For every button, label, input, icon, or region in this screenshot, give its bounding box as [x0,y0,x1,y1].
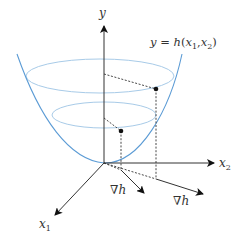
function-close-paren: ) [212,35,217,49]
x1-axis-label: x1 [39,218,51,233]
upper-point-dash-to-y [104,74,156,89]
upper-point [154,87,159,92]
x1-axis [55,163,104,215]
x2-axis-label: x2 [219,157,231,172]
diagram-canvas: y y = h(x1,x2) x2 x1 ∇h ∇h [0,0,248,243]
lower-point [119,129,124,134]
gradient-label-upper: ∇h [173,195,189,207]
function-label: y = h(x1,x2) [150,37,217,51]
x1-label-sub: 1 [46,224,51,233]
gradient-var: h [118,183,126,197]
x2-label-sub: 2 [226,163,231,172]
gradient-arrow-upper [156,179,203,194]
lower-point-dash-to-y [104,118,121,131]
y-axis-label: y [99,7,106,19]
parabola-surface [17,54,182,163]
upper-point-dash-base [104,163,156,179]
gradient-var: h [181,194,189,208]
lower-point-dash-base [104,163,121,170]
x2-label-var: x [219,156,226,170]
upper-contour-ellipse [26,59,174,93]
function-name: h [173,35,180,49]
x1-label-var: x [39,217,46,231]
gradient-label-lower: ∇h [110,184,126,196]
function-eq: = [157,35,174,49]
